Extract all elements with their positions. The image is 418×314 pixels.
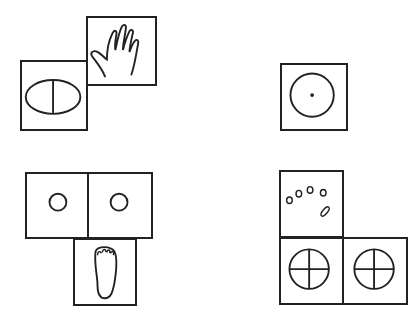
circle-with-dot-icon	[282, 65, 346, 129]
dots-arc-icon	[281, 172, 342, 236]
quartered-circle-icon	[281, 239, 342, 303]
small-circle-icon	[27, 174, 87, 237]
foot-icon	[75, 240, 135, 304]
card-circle-with-dot	[280, 63, 348, 131]
quartered-circle-icon	[344, 239, 406, 303]
card-small-circle-left	[25, 172, 89, 239]
card-foot	[73, 238, 137, 306]
card-small-circle-right	[87, 172, 153, 239]
card-quartered-circle-right	[342, 237, 408, 305]
card-dots-arc	[279, 170, 344, 238]
card-quartered-circle-left	[279, 237, 344, 305]
hand-icon	[88, 18, 155, 84]
card-hand	[86, 16, 157, 86]
divided-oval-icon	[22, 62, 86, 129]
small-circle-icon	[89, 174, 151, 237]
card-divided-oval	[20, 60, 88, 131]
